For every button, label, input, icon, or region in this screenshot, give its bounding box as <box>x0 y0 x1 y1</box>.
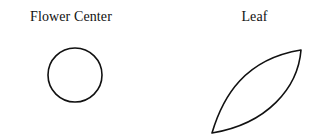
leaf-outline <box>212 50 301 133</box>
panel-leaf: Leaf <box>150 0 315 136</box>
leaf-shape <box>150 0 315 136</box>
flower-center-shape <box>0 0 150 136</box>
panel-flower-center: Flower Center <box>0 0 150 136</box>
figure-canvas: Flower Center Leaf <box>0 0 315 136</box>
circle-outline <box>48 48 102 102</box>
